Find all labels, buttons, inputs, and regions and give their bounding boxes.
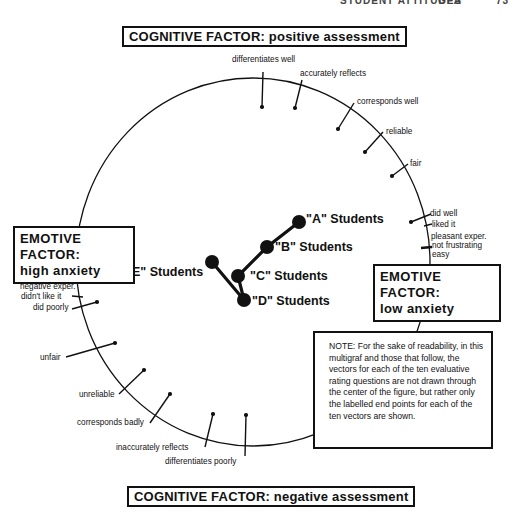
- point-c-students: [231, 269, 245, 283]
- point-d-students: [237, 293, 251, 307]
- label-easy: easy: [432, 250, 450, 259]
- label-corresponds-well: corresponds well: [357, 97, 419, 106]
- label-not-frustrating: not frustrating: [432, 241, 483, 250]
- label-d-students: "D" Students: [252, 294, 330, 308]
- label-didnt-like-it: didn't like it: [21, 292, 62, 301]
- label-differentiates-well: differentiates well: [232, 55, 295, 64]
- label-did-poorly: did poorly: [33, 303, 69, 312]
- note-box: NOTE: For the sake of readability, in th…: [313, 331, 493, 449]
- label-b-students: "B" Students: [275, 240, 353, 254]
- label-pleasant-exper: pleasant exper.: [431, 232, 487, 241]
- cognitive-positive-box: COGNITIVE FACTOR: positive assessment: [122, 26, 407, 47]
- label-corresponds-badly: corresponds badly: [77, 418, 145, 427]
- label-liked-it: liked it: [432, 220, 456, 229]
- emotive-low-title: EMOTIVE FACTOR:: [380, 269, 494, 301]
- label-differentiates-poorly: differentiates poorly: [165, 457, 237, 466]
- label-did-well: did well: [430, 209, 457, 218]
- emotive-high-box: EMOTIVE FACTOR: high anxiety: [13, 226, 135, 284]
- label-inaccurately-reflects: inaccurately reflects: [116, 443, 188, 452]
- emotive-high-title: EMOTIVE FACTOR:: [20, 231, 128, 263]
- point-b-students: [260, 240, 274, 254]
- emotive-low-subtitle: low anxiety: [380, 301, 494, 317]
- negative-vector-ticks: [66, 275, 247, 456]
- label-a-students: "A" Students: [306, 212, 384, 226]
- label-e-students: "E" Students: [126, 265, 203, 279]
- emotive-low-box: EMOTIVE FACTOR: low anxiety: [373, 264, 501, 322]
- label-fair: fair: [410, 159, 422, 168]
- cognitive-negative-box: COGNITIVE FACTOR: negative assessment: [127, 486, 415, 507]
- point-a-students: [292, 215, 306, 229]
- label-unfair: unfair: [40, 353, 61, 362]
- label-unreliable: unreliable: [79, 390, 115, 399]
- point-e-students: [205, 255, 219, 269]
- emotive-high-subtitle: high anxiety: [20, 263, 128, 279]
- label-reliable: reliable: [386, 127, 413, 136]
- label-accurately-reflects: accurately reflects: [300, 69, 366, 78]
- label-c-students: "C" Students: [250, 269, 328, 283]
